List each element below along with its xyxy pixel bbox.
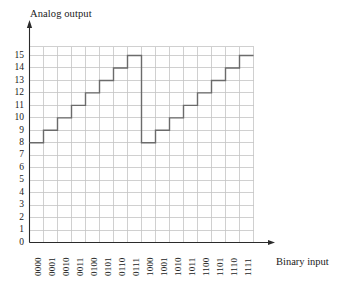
x-tick-label: 1011	[188, 257, 197, 275]
y-tick-label: 10	[6, 113, 24, 123]
y-tick-label: 5	[6, 175, 24, 185]
y-tick-label: 4	[6, 188, 24, 198]
x-tick-label: 0011	[76, 257, 85, 275]
y-tick-label: 8	[6, 138, 24, 148]
y-tick-label: 0	[6, 238, 24, 248]
x-tick-label: 0100	[90, 257, 99, 276]
chart-figure: Analog output Binary input 0123456789101…	[0, 0, 341, 302]
x-tick-label: 0101	[104, 257, 113, 276]
y-tick-label: 11	[6, 101, 24, 111]
axis-lines	[27, 20, 275, 245]
x-tick-label: 1001	[160, 257, 169, 276]
x-tick-label: 0010	[62, 257, 71, 276]
x-tick-label: 1000	[146, 257, 155, 276]
x-tick-label: 0111	[132, 257, 141, 275]
y-tick-label: 1	[6, 225, 24, 235]
x-tick-label: 0001	[48, 257, 57, 276]
y-tick-label: 9	[6, 126, 24, 136]
x-tick-label: 0000	[34, 257, 43, 276]
y-axis-arrow-icon	[27, 20, 32, 28]
y-tick-label: 13	[6, 76, 24, 86]
y-tick-label: 14	[6, 63, 24, 73]
x-tick-label: 1111	[244, 258, 253, 276]
x-axis-arrow-icon	[268, 240, 275, 245]
staircase-data-line	[30, 56, 254, 143]
y-tick-label: 7	[6, 150, 24, 160]
x-tick-label: 1110	[230, 257, 239, 275]
y-tick-label: 3	[6, 200, 24, 210]
x-tick-label: 1101	[216, 257, 225, 275]
x-tick-label: 1100	[202, 257, 211, 275]
y-tick-label: 6	[6, 163, 24, 173]
y-tick-label: 12	[6, 88, 24, 98]
x-tick-label: 1010	[174, 257, 183, 276]
x-tick-label: 0110	[118, 257, 127, 275]
y-tick-label: 15	[6, 51, 24, 61]
y-tick-label: 2	[6, 213, 24, 223]
